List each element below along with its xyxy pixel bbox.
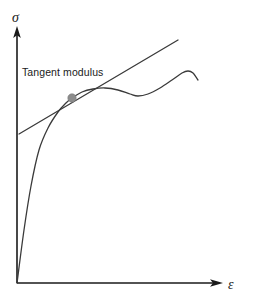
stress-strain-curve <box>17 71 198 283</box>
figure-canvas: σ ε Tangent modulus <box>0 0 258 299</box>
x-axis-group <box>17 279 223 287</box>
tangent-point-marker <box>68 94 76 102</box>
y-axis-label: σ <box>12 10 20 25</box>
x-axis-label: ε <box>228 277 234 292</box>
y-axis-group <box>13 26 21 283</box>
tangent-line <box>19 40 178 134</box>
tangent-modulus-label: Tangent modulus <box>22 66 103 78</box>
stress-strain-figure: σ ε Tangent modulus <box>0 0 258 299</box>
